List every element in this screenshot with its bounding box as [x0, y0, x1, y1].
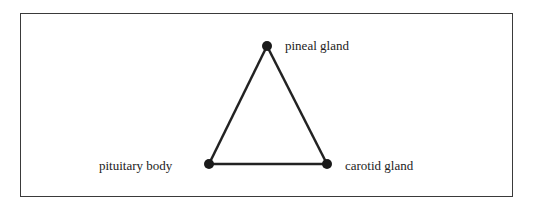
label-pituitary-body: pituitary body [99, 159, 172, 172]
triangle-diagram [0, 0, 535, 211]
edge-pineal-pituitary [209, 46, 267, 164]
label-pineal-gland: pineal gland [285, 39, 349, 52]
node-pineal [262, 41, 272, 51]
label-carotid-gland: carotid gland [345, 159, 413, 172]
edge-pineal-carotid [267, 46, 327, 164]
node-carotid [322, 159, 332, 169]
node-pituitary [204, 159, 214, 169]
